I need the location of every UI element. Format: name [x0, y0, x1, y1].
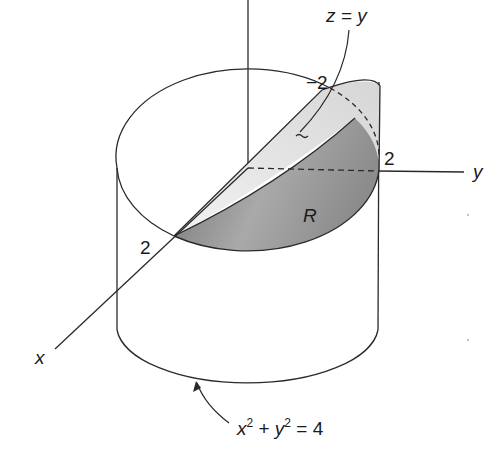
speck	[467, 214, 469, 216]
y-axis	[378, 171, 464, 172]
x-axis	[55, 168, 248, 349]
y-axis-label: y	[471, 161, 484, 182]
cylinder-plane-diagram: z = y −2 2 2 R y x x2 + y2 = 4	[0, 0, 501, 467]
plane-label: z = y	[325, 5, 368, 26]
speck	[467, 339, 469, 341]
region-label: R	[303, 205, 317, 226]
x-axis-label: x	[34, 347, 46, 368]
cylinder-bottom-ellipse	[117, 330, 378, 383]
x-two-label: 2	[140, 237, 151, 258]
cylinder-equation-label: x2 + y2 = 4	[236, 416, 324, 439]
cylinder-leader-line	[197, 383, 229, 423]
neg-two-label: −2	[306, 72, 328, 93]
y-two-label: 2	[384, 148, 395, 169]
